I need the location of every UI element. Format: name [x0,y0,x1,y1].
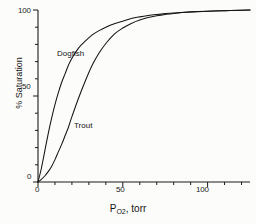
curve-label-dogfish: Dogfish [57,49,84,58]
x-tick-label-50: 50 [116,185,125,194]
curve-trout [38,10,250,182]
oxygen-dissociation-chart: 100 50 0 0 50 100 % Saturation PO2, torr… [0,0,256,224]
x-axis-title-rest: , torr [126,203,147,214]
x-tick-label-100: 100 [196,185,209,194]
y-axis-ticks [33,10,38,182]
y-axis-title: % Saturation [14,28,24,138]
y-tick-label-0: 0 [27,172,31,181]
x-tick-label-0: 0 [35,185,39,194]
axis-lines [38,10,250,182]
y-tick-label-100: 100 [18,6,31,15]
curve-dogfish [38,10,250,182]
x-axis-title: PO2, torr [0,203,256,215]
x-axis-ticks [38,182,242,187]
curve-label-trout: Trout [74,121,92,130]
